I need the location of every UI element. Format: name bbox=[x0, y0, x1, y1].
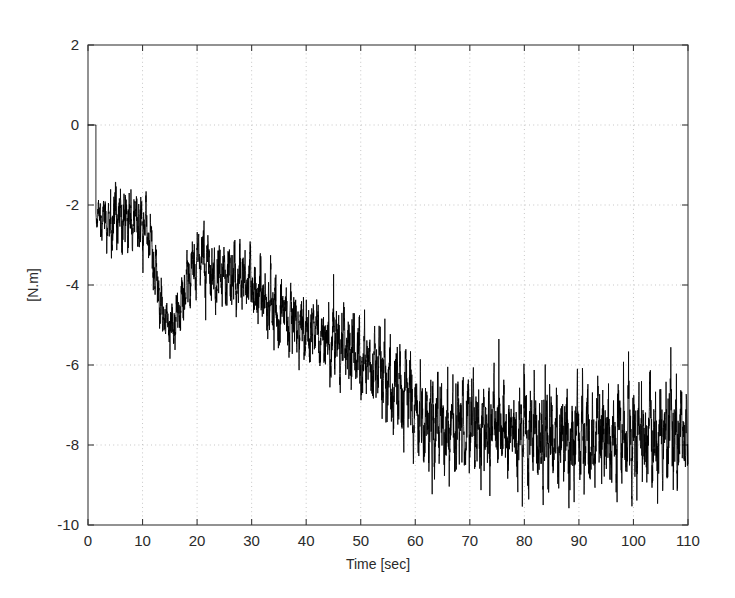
chart-figure: 0102030405060708090100110 20-2-4-6-8-10 … bbox=[0, 0, 735, 598]
y-tick-label: -6 bbox=[66, 356, 79, 373]
x-tick-label: 10 bbox=[134, 532, 151, 549]
x-tick-label: 70 bbox=[461, 532, 478, 549]
y-tick-label: -10 bbox=[57, 516, 79, 533]
chart-canvas: 0102030405060708090100110 20-2-4-6-8-10 … bbox=[0, 0, 735, 598]
x-tick-label: 50 bbox=[352, 532, 369, 549]
x-tick-label: 20 bbox=[189, 532, 206, 549]
x-tick-label: 90 bbox=[571, 532, 588, 549]
x-tick-label: 30 bbox=[243, 532, 260, 549]
y-tick-label: -2 bbox=[66, 196, 79, 213]
x-tick-label: 80 bbox=[516, 532, 533, 549]
x-tick-label: 40 bbox=[298, 532, 315, 549]
figure-background bbox=[0, 0, 735, 598]
y-axis-title: [N.m] bbox=[25, 268, 41, 301]
y-tick-label: -8 bbox=[66, 436, 79, 453]
x-axis-title: Time [sec] bbox=[346, 556, 410, 572]
y-tick-label: 0 bbox=[71, 116, 79, 133]
x-tick-label: 60 bbox=[407, 532, 424, 549]
y-tick-label: -4 bbox=[66, 276, 79, 293]
y-tick-label: 2 bbox=[71, 36, 79, 53]
x-tick-label: 0 bbox=[84, 532, 92, 549]
x-tick-label: 110 bbox=[676, 532, 700, 549]
x-tick-label: 100 bbox=[621, 532, 646, 549]
